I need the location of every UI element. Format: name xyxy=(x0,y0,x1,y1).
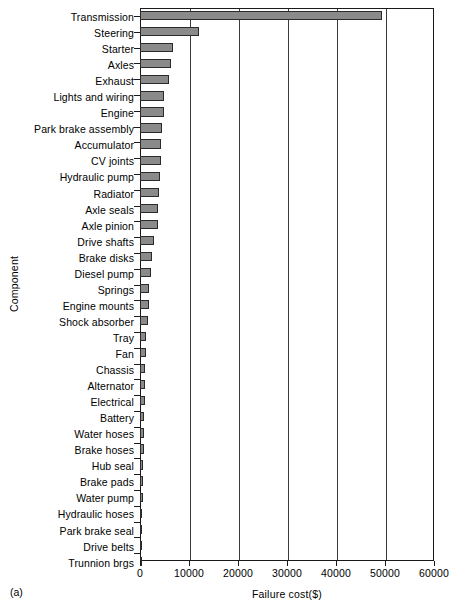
bar-row xyxy=(140,538,434,554)
y-tick-mark xyxy=(134,16,140,17)
bar xyxy=(140,252,152,261)
bar-row xyxy=(140,152,434,168)
bar-row xyxy=(140,281,434,297)
bar xyxy=(140,348,146,357)
y-tick-mark xyxy=(134,221,140,222)
category-label: Steering xyxy=(20,25,134,41)
bar-row xyxy=(140,393,434,409)
bar xyxy=(140,139,161,148)
bar-row xyxy=(140,441,434,457)
bar xyxy=(140,188,159,197)
category-label: Fan xyxy=(20,346,134,362)
category-label: Axle seals xyxy=(20,202,134,218)
category-label: Axle pinion xyxy=(20,218,134,234)
category-label: Shock absorber xyxy=(20,314,134,330)
bar xyxy=(140,107,164,116)
bar xyxy=(140,476,143,485)
bar-row xyxy=(140,297,434,313)
bar-row xyxy=(140,265,434,281)
x-tick-mark xyxy=(336,561,337,566)
category-label-list: TransmissionSteeringStarterAxlesExhaustL… xyxy=(20,9,134,571)
bar xyxy=(140,284,149,293)
bar-row xyxy=(140,425,434,441)
x-axis-title: Failure cost($) xyxy=(140,588,434,600)
bar xyxy=(140,300,149,309)
bar-row xyxy=(140,136,434,152)
bar xyxy=(140,541,142,550)
y-tick-mark xyxy=(134,253,140,254)
y-tick-mark xyxy=(134,158,140,159)
bar xyxy=(140,75,169,84)
y-tick-mark xyxy=(134,490,140,491)
y-tick-mark xyxy=(134,127,140,128)
y-tick-mark xyxy=(134,411,140,412)
bar-row xyxy=(140,8,434,24)
bar-row xyxy=(140,329,434,345)
failure-cost-bar-chart-figure: Component TransmissionSteeringStarterAxl… xyxy=(0,0,457,612)
bar-row xyxy=(140,505,434,521)
bar xyxy=(140,509,142,518)
bar xyxy=(140,332,146,341)
category-label: Brake hoses xyxy=(20,442,134,458)
category-label: Chassis xyxy=(20,362,134,378)
category-label: Electrical xyxy=(20,394,134,410)
x-tick-mark xyxy=(238,561,239,566)
y-tick-mark xyxy=(134,474,140,475)
bar-row xyxy=(140,168,434,184)
y-tick-mark xyxy=(134,269,140,270)
category-label: Radiator xyxy=(20,186,134,202)
bar xyxy=(140,268,151,277)
bar xyxy=(140,220,158,229)
category-label: Accumulator xyxy=(20,137,134,153)
y-tick-mark xyxy=(134,190,140,191)
category-label: Transmission xyxy=(20,9,134,25)
bar xyxy=(140,172,160,181)
bar xyxy=(140,428,144,437)
y-tick-mark xyxy=(134,427,140,428)
bar-row xyxy=(140,345,434,361)
bar-row xyxy=(140,409,434,425)
panel-caption: (a) xyxy=(10,586,23,598)
y-tick-mark xyxy=(134,332,140,333)
category-label: Drive shafts xyxy=(20,234,134,250)
bar-row xyxy=(140,249,434,265)
bar xyxy=(140,123,162,132)
y-tick-mark xyxy=(134,63,140,64)
bar xyxy=(140,316,148,325)
bar-row xyxy=(140,185,434,201)
y-tick-mark xyxy=(134,285,140,286)
x-tick-mark xyxy=(287,561,288,566)
bar-row xyxy=(140,457,434,473)
bar-row xyxy=(140,217,434,233)
y-tick-mark xyxy=(134,32,140,33)
bar xyxy=(140,236,154,245)
y-tick-mark xyxy=(134,206,140,207)
bar-row xyxy=(140,72,434,88)
bar xyxy=(140,91,164,100)
category-label: Hydraulic hoses xyxy=(20,506,134,522)
bar xyxy=(140,444,144,453)
category-label: CV joints xyxy=(20,153,134,169)
category-label: Drive belts xyxy=(20,539,134,555)
bar-row xyxy=(140,233,434,249)
bar xyxy=(140,525,142,534)
bar-row xyxy=(140,522,434,538)
bar-series xyxy=(140,8,434,561)
y-tick-mark xyxy=(134,458,140,459)
x-tick-mark xyxy=(189,561,190,566)
bar-row xyxy=(140,40,434,56)
category-label: Brake pads xyxy=(20,474,134,490)
y-tick-mark xyxy=(134,522,140,523)
bar-row xyxy=(140,473,434,489)
category-label: Tray xyxy=(20,330,134,346)
category-label: Engine mounts xyxy=(20,298,134,314)
category-label: Water pump xyxy=(20,490,134,506)
category-label: Park brake seal xyxy=(20,523,134,539)
category-label: Axles xyxy=(20,57,134,73)
bar-row xyxy=(140,56,434,72)
y-tick-mark xyxy=(134,395,140,396)
y-axis-title: Component xyxy=(8,239,20,329)
x-tick-label: 60000 xyxy=(404,567,457,579)
bar xyxy=(140,11,382,20)
bar-row xyxy=(140,489,434,505)
